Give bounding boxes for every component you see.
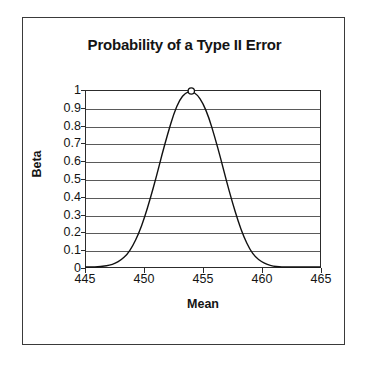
y-axis-tick-label: 0.4 [47,191,81,204]
plot-area [85,90,321,268]
y-axis-tick-labels: 00.10.20.30.40.50.60.70.80.91 [43,90,81,268]
beta-curve [86,91,320,267]
y-axis-tick-label: 0.5 [47,173,81,186]
chart-screenshot: Probability of a Type II Error Beta 00.1… [0,0,365,366]
y-axis-tick-label: 0.8 [47,119,81,132]
x-axis-tick-label: 450 [134,273,155,286]
x-axis-tick-label: 465 [311,273,332,286]
y-axis-title: Beta [30,134,44,194]
y-axis-tick-label: 0.2 [47,226,81,239]
x-axis-tick-label: 455 [193,273,214,286]
y-axis-tick-label: 0.6 [47,155,81,168]
y-axis-tick-label: 1 [47,84,81,97]
y-axis-tick-label: 0.9 [47,102,81,115]
x-axis-tick-label: 460 [252,273,273,286]
x-axis-title: Mean [85,297,321,311]
chart-title: Probability of a Type II Error [23,36,346,53]
y-axis-tick-label: 0.3 [47,208,81,221]
chart-frame: Probability of a Type II Error Beta 00.1… [22,17,345,345]
y-axis-tick-label: 0.7 [47,137,81,150]
x-axis-tick-labels: 445450455460465 [85,273,321,293]
y-axis-tick-label: 0.1 [47,244,81,257]
x-axis-tick-label: 445 [75,273,96,286]
